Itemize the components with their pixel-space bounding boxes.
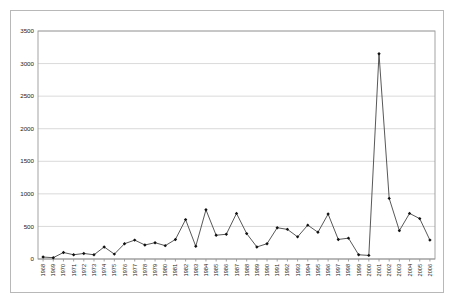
data-point-marker [387, 197, 390, 200]
x-axis-tick-label: 1991 [274, 264, 280, 276]
x-axis-tick-label: 1982 [183, 264, 189, 276]
x-axis-tick-label: 2004 [407, 264, 413, 276]
data-point-marker [326, 212, 329, 215]
x-axis-tick-label: 2006 [427, 264, 433, 276]
x-axis-tick-label: 1973 [91, 264, 97, 276]
data-point-marker [377, 52, 380, 55]
x-axis-tick-label: 1997 [335, 264, 341, 276]
y-axis-tick-label: 1500 [20, 157, 34, 164]
data-point-marker [225, 233, 228, 236]
data-series-markers [41, 52, 431, 259]
data-point-marker [82, 252, 85, 255]
x-axis-tick-label: 1984 [203, 264, 209, 276]
x-axis-tick-label: 1972 [81, 264, 87, 276]
x-axis-tick-label: 1996 [325, 264, 331, 276]
x-axis-tick-label: 1975 [111, 264, 117, 276]
chart-plot-wrapper: 0500100015002000250030003500 19681969197… [11, 11, 445, 294]
x-axis-tick-label: 1985 [213, 264, 219, 276]
data-point-marker [194, 245, 197, 248]
x-axis-tick-label: 1993 [295, 264, 301, 276]
x-axis-tick-label: 1989 [254, 264, 260, 276]
x-axis-tick-label: 1979 [152, 264, 158, 276]
data-series-line [43, 54, 430, 258]
x-axis-tick-label: 1969 [50, 264, 56, 276]
line-chart: 0500100015002000250030003500 19681969197… [11, 11, 445, 294]
x-axis-tick-label: 1978 [142, 264, 148, 276]
data-point-marker [41, 255, 44, 258]
x-axis-tick-label: 1976 [122, 264, 128, 276]
x-axis-tick-label: 1981 [172, 264, 178, 276]
plot-area-border [38, 31, 435, 259]
y-axis-tick-label: 1000 [20, 190, 34, 197]
data-point-marker [62, 251, 65, 254]
x-axis-tick-labels: 1968196919701971197219731974197519761977… [40, 264, 433, 276]
x-axis-tick-label: 1977 [132, 264, 138, 276]
data-point-marker [428, 238, 431, 241]
data-point-marker [204, 208, 207, 211]
x-axis-tick-label: 1990 [264, 264, 270, 276]
x-axis-tick-label: 1992 [284, 264, 290, 276]
data-point-marker [133, 238, 136, 241]
data-point-marker [214, 234, 217, 237]
x-axis-tick-label: 2003 [396, 264, 402, 276]
x-axis-tick-label: 1983 [193, 264, 199, 276]
x-axis-tick-label: 1968 [40, 264, 46, 276]
x-axis-tick-label: 1987 [234, 264, 240, 276]
y-axis-tick-label: 3500 [20, 27, 34, 34]
x-axis-tick-label: 1970 [60, 264, 66, 276]
x-axis-tick-label: 1971 [71, 264, 77, 276]
data-point-marker [235, 212, 238, 215]
x-axis-tick-label: 2000 [366, 264, 372, 276]
x-axis-tick-label: 1999 [356, 264, 362, 276]
y-axis-tick-label: 3000 [20, 60, 34, 67]
data-point-marker [367, 254, 370, 257]
x-axis-tick-label: 1988 [244, 264, 250, 276]
x-axis-tick-label: 1998 [345, 264, 351, 276]
y-axis-tick-labels: 0500100015002000250030003500 [20, 27, 34, 262]
data-point-marker [72, 253, 75, 256]
y-axis-tick-label: 500 [24, 223, 35, 230]
x-axis-tick-label: 2005 [417, 264, 423, 276]
chart-outer-frame: 0500100015002000250030003500 19681969197… [10, 10, 444, 293]
x-axis-tick-label: 1986 [223, 264, 229, 276]
x-axis-tick-label: 2002 [386, 264, 392, 276]
data-point-marker [153, 241, 156, 244]
data-point-marker [143, 243, 146, 246]
x-axis-tick-label: 1994 [305, 264, 311, 276]
data-point-marker [418, 217, 421, 220]
x-axis-tick-label: 1980 [162, 264, 168, 276]
data-point-marker [337, 238, 340, 241]
y-axis-tick-label: 0 [31, 255, 35, 262]
gridlines-group [38, 31, 435, 259]
x-axis-tick-label: 2001 [376, 264, 382, 276]
y-axis-tick-label: 2500 [20, 92, 34, 99]
x-axis-tick-label: 1995 [315, 264, 321, 276]
data-point-marker [184, 218, 187, 221]
y-axis-tick-label: 2000 [20, 125, 34, 132]
x-axis-tick-label: 1974 [101, 264, 107, 276]
